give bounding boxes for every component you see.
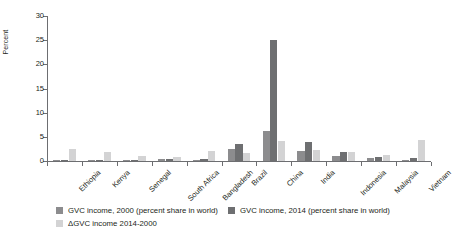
y-tick-label: 15 bbox=[36, 84, 44, 93]
x-axis-label: Bangladesh bbox=[221, 168, 255, 202]
bar bbox=[173, 157, 180, 161]
bar-group bbox=[263, 16, 286, 161]
bar bbox=[61, 160, 68, 161]
bar bbox=[138, 156, 145, 161]
x-tick-mark bbox=[361, 162, 362, 166]
bar bbox=[131, 160, 138, 161]
x-axis-label: China bbox=[285, 168, 305, 188]
bar bbox=[313, 150, 320, 161]
y-tick-label: 20 bbox=[36, 59, 44, 68]
x-tick-mark bbox=[152, 162, 153, 166]
x-axis-label: Ethiopia bbox=[77, 168, 103, 194]
x-tick-mark bbox=[431, 162, 432, 166]
bar bbox=[104, 152, 111, 161]
bar-group bbox=[297, 16, 320, 161]
bar-group bbox=[158, 16, 181, 161]
y-tick-label: 5 bbox=[40, 132, 44, 141]
x-axis-label: Senegal bbox=[147, 168, 173, 194]
bar bbox=[297, 151, 304, 161]
y-tick-label: 30 bbox=[36, 11, 44, 20]
legend-label: GVC income, 2000 (percent share in world… bbox=[68, 206, 218, 215]
bar bbox=[418, 140, 425, 161]
y-tick-label: 0 bbox=[40, 156, 44, 165]
bar bbox=[69, 149, 76, 161]
y-axis-line bbox=[47, 16, 48, 162]
bar bbox=[383, 155, 390, 161]
bar bbox=[96, 160, 103, 161]
bar-group bbox=[193, 16, 216, 161]
x-tick-mark bbox=[291, 162, 292, 166]
x-tick-mark bbox=[256, 162, 257, 166]
x-axis-label: Kenya bbox=[111, 168, 132, 189]
bar bbox=[270, 40, 277, 161]
bar bbox=[410, 158, 417, 161]
bar bbox=[263, 131, 270, 161]
bar bbox=[340, 152, 347, 161]
x-tick-mark bbox=[117, 162, 118, 166]
x-tick-mark bbox=[187, 162, 188, 166]
legend-item-delta-gvc-income: ΔGVC income 2014-2000 bbox=[56, 219, 157, 228]
bar bbox=[305, 142, 312, 161]
y-tick-label: 10 bbox=[36, 108, 44, 117]
x-axis-label: South Africa bbox=[186, 168, 221, 203]
legend-item-gvc-income-2000: GVC income, 2000 (percent share in world… bbox=[56, 206, 228, 215]
bar-group bbox=[53, 16, 76, 161]
bar bbox=[123, 160, 130, 161]
y-tick-label: 25 bbox=[36, 35, 44, 44]
legend-label: GVC income, 2014 (percent share in world… bbox=[240, 206, 390, 215]
bar-group bbox=[228, 16, 251, 161]
legend-swatch-icon bbox=[56, 207, 63, 214]
bar bbox=[88, 160, 95, 161]
bar bbox=[166, 159, 173, 161]
legend-row-2: ΔGVC income 2014-2000 bbox=[56, 219, 436, 228]
bar-group bbox=[332, 16, 355, 161]
bar bbox=[348, 152, 355, 161]
bar bbox=[53, 160, 60, 161]
bar bbox=[243, 153, 250, 161]
x-tick-mark bbox=[326, 162, 327, 166]
bar bbox=[208, 151, 215, 161]
x-axis-line bbox=[47, 161, 431, 162]
chart-legend: GVC income, 2000 (percent share in world… bbox=[56, 206, 436, 232]
bar-group bbox=[123, 16, 146, 161]
legend-row-1: GVC income, 2000 (percent share in world… bbox=[56, 206, 436, 215]
bar bbox=[332, 156, 339, 161]
x-tick-mark bbox=[82, 162, 83, 166]
bar bbox=[235, 144, 242, 161]
legend-item-gvc-income-2014: GVC income, 2014 (percent share in world… bbox=[228, 206, 390, 215]
bar bbox=[228, 149, 235, 161]
x-tick-mark bbox=[396, 162, 397, 166]
x-axis-label: Vietnam bbox=[427, 168, 452, 194]
bar-group bbox=[367, 16, 390, 161]
bar bbox=[402, 160, 409, 161]
plot-area: 051015202530 bbox=[47, 16, 431, 162]
y-axis-title: Percent bbox=[2, 12, 9, 72]
bar bbox=[367, 158, 374, 161]
legend-swatch-icon bbox=[228, 207, 235, 214]
bar bbox=[278, 141, 285, 161]
bar bbox=[158, 159, 165, 161]
x-axis-label: India bbox=[319, 168, 337, 186]
bar-group bbox=[88, 16, 111, 161]
x-tick-mark bbox=[47, 162, 48, 166]
x-axis-label: Malaysia bbox=[392, 168, 419, 195]
x-axis-label: Indonesia bbox=[358, 168, 387, 197]
legend-swatch-icon bbox=[56, 220, 63, 227]
bar bbox=[193, 160, 200, 161]
bar bbox=[375, 157, 382, 161]
bar bbox=[200, 159, 207, 161]
legend-label: ΔGVC income 2014-2000 bbox=[68, 219, 157, 228]
x-tick-mark bbox=[222, 162, 223, 166]
bar-group bbox=[402, 16, 425, 161]
